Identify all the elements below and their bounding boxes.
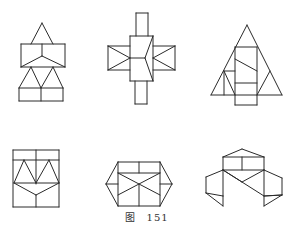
figure-segment (160, 184, 172, 206)
figure-segment (206, 170, 223, 177)
figure-segment (21, 56, 42, 67)
figure-segment (106, 162, 118, 184)
caption-number: 151 (147, 212, 169, 223)
figure-segment (247, 25, 282, 95)
figure-4-rectangle (13, 150, 59, 207)
figure-segment (145, 36, 153, 58)
figure-segment (264, 195, 282, 196)
figure-3-triangle (211, 25, 282, 105)
figure-segment (36, 160, 49, 183)
figure-segment (36, 183, 59, 195)
figure-caption: 图 151 (0, 209, 294, 224)
figure-segment (160, 162, 172, 184)
figure-segment (24, 160, 36, 183)
figure-segment (264, 170, 282, 178)
figure-segment (31, 23, 42, 44)
figure-1-tower (19, 23, 65, 101)
figure-segment (53, 67, 63, 88)
figure-segment (14, 160, 24, 183)
figure-segment (211, 25, 247, 95)
figure-segment (42, 23, 53, 44)
figure-5-hexagon (106, 162, 172, 206)
figure-segment (49, 160, 59, 183)
caption-label: 图 (125, 212, 136, 223)
figure-segment (108, 46, 130, 58)
figure-2-cross (108, 13, 175, 104)
figure-segment (31, 67, 41, 88)
figure-segment (19, 67, 31, 88)
figure-segment (223, 149, 242, 157)
figure-segment (14, 183, 36, 195)
figure-segment (41, 67, 53, 88)
figure-segment (242, 149, 264, 157)
figure-segment (153, 58, 175, 70)
figure-segment (145, 58, 153, 81)
figure-segment (264, 195, 282, 206)
figure-segment (242, 170, 264, 182)
figure-segment (42, 56, 65, 67)
figure-segment (235, 59, 257, 71)
figure-segment (108, 58, 130, 70)
figure-segment (224, 71, 235, 95)
figure-151-canvas (0, 0, 294, 230)
figure-segment (257, 71, 270, 95)
figure-segment (153, 46, 175, 58)
figure-6-cluster (206, 149, 282, 206)
figure-segment (106, 184, 118, 206)
